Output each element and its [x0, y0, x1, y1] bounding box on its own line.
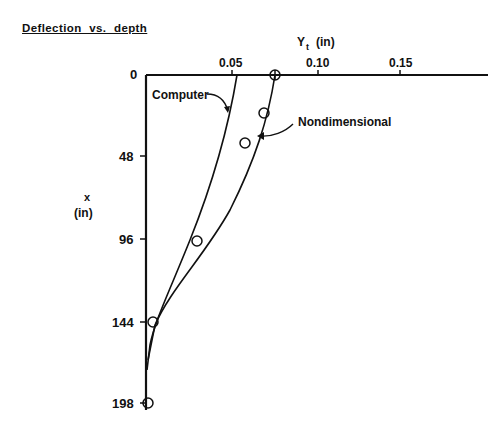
- y-tick-label: 96: [119, 232, 133, 247]
- x-axis-label-sub: t: [306, 42, 309, 52]
- chart-canvas: 0 0.05 0.10 0.15 Y t (in) 48 96 144 198 …: [0, 0, 503, 421]
- data-point-marker: [240, 138, 250, 148]
- y-axis-label-unit: (in): [74, 206, 93, 220]
- data-point-marker: [192, 236, 202, 246]
- y-axis-label-var: x: [84, 191, 91, 203]
- nondimensional-arrow: [260, 124, 293, 136]
- computer-annotation: Computer: [152, 88, 209, 102]
- x-axis-label-unit: (in): [316, 35, 335, 49]
- y-tick-label: 48: [119, 149, 133, 164]
- x-tick-label: 0.10: [306, 56, 330, 70]
- y-tick-label: 198: [112, 396, 134, 411]
- x-tick-label: 0.05: [219, 56, 243, 70]
- nondimensional-annotation: Nondimensional: [298, 115, 391, 129]
- x-tick-label: 0.15: [389, 56, 413, 70]
- computer-arrow: [207, 94, 228, 111]
- y-tick-label: 144: [112, 315, 134, 330]
- x-axis-label-main: Y: [297, 35, 305, 49]
- nondimensional-curve: [148, 75, 275, 360]
- x-origin-label: 0: [130, 67, 137, 82]
